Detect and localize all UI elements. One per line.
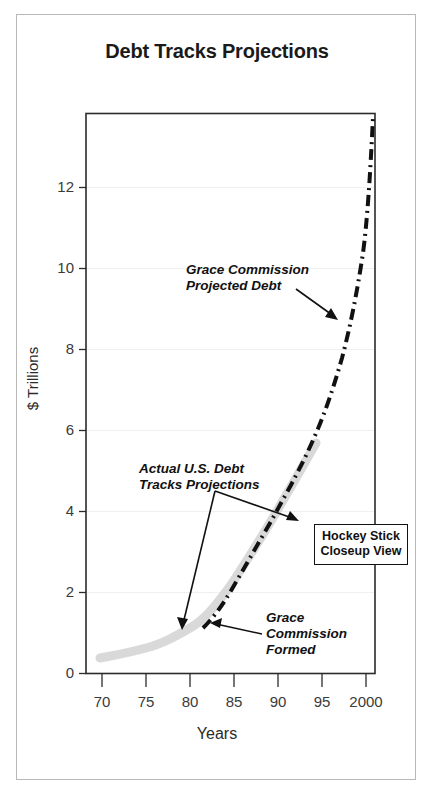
y-tick-label-12: 12 (44, 178, 74, 195)
x-axis-label: Years (0, 725, 434, 743)
x-tick-label-95: 95 (314, 693, 331, 710)
y-tick-label-4: 4 (44, 502, 74, 519)
y-tick-label-0: 0 (44, 664, 74, 681)
x-axis-ticks (102, 674, 366, 688)
x-tick-label-85: 85 (226, 693, 243, 710)
y-axis-ticks (79, 188, 86, 674)
y-tick-label-6: 6 (44, 421, 74, 438)
y-tick-label-8: 8 (44, 340, 74, 357)
x-tick-label-70: 70 (94, 693, 111, 710)
x-tick-label-2000: 2000 (349, 693, 382, 710)
x-tick-label-90: 90 (270, 693, 287, 710)
x-tick-label-75: 75 (138, 693, 155, 710)
y-tick-label-10: 10 (44, 259, 74, 276)
y-axis-label: $ Trillions (24, 319, 41, 439)
arrow-grace-commission-formed (210, 618, 262, 634)
hockey-stick-closeup-callout: Hockey Stick Closeup View (314, 524, 408, 565)
y-tick-label-2: 2 (44, 583, 74, 600)
annotation-grace-commission-formed: Grace Commission Formed (266, 610, 347, 658)
annotation-projected-debt: Grace Commission Projected Debt (186, 262, 309, 294)
annotation-actual-debt: Actual U.S. Debt Tracks Projections (139, 461, 260, 493)
chart-page: Debt Tracks Projections (0, 0, 434, 795)
x-tick-label-80: 80 (182, 693, 199, 710)
